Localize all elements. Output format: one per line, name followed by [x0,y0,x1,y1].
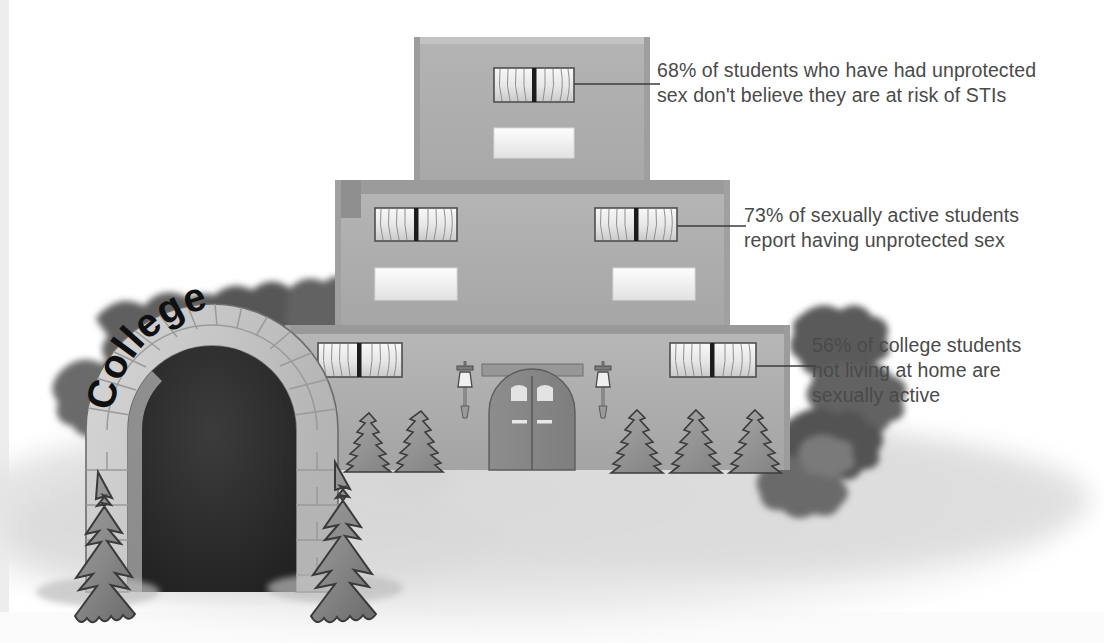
illustration-canvas: College 68% of students who have had unp… [0,0,1104,643]
callout-stat-2: 73% of sexually active students report h… [744,203,1099,253]
window-middle-right-curtained [595,208,677,241]
window-gap [532,68,537,102]
door-window-left [511,385,527,401]
building-top-floor [414,37,650,182]
callout-stat-3: 56% of college students not living at ho… [812,333,1102,408]
callout-stat-1: 68% of students who have had unprotected… [657,58,1097,108]
window-middle-left-curtained [375,208,457,241]
window-top-floor-curtained [494,68,574,102]
door-handle-left [512,420,527,424]
window-middle-left-plain [375,268,457,300]
building-middle-floor [335,180,730,325]
window-ground-left-curtained [318,343,402,377]
shrub-row-right [611,410,781,473]
window-top-floor-plain [494,128,574,158]
window-ground-right-curtained [670,343,756,377]
door-window-right [537,385,553,401]
door-handle-right [537,420,552,424]
window-middle-right-plain [613,268,695,300]
